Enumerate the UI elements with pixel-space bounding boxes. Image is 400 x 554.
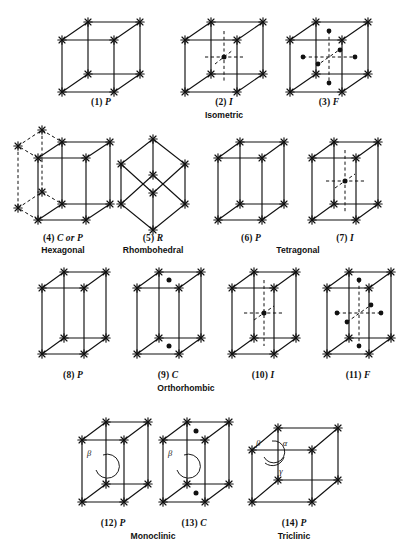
angle-label-beta-14: β bbox=[255, 438, 261, 448]
group-label-isometric: Isometric bbox=[205, 110, 243, 120]
lattice-point-body-center bbox=[262, 311, 267, 316]
caption-cell-2: (2) I bbox=[215, 97, 233, 107]
caption-cell-7: (7) I bbox=[336, 233, 354, 243]
caption-cell-12: (12) P bbox=[101, 518, 126, 528]
caption-cell-11: (11) F bbox=[346, 370, 371, 380]
cell-6-tetragonal-p bbox=[214, 138, 288, 224]
vertex-markers bbox=[214, 138, 288, 224]
angle-label-gamma-14: γ bbox=[279, 466, 283, 476]
cell-14-triclinic-p: β α γ bbox=[248, 424, 342, 506]
vertex-markers bbox=[14, 126, 114, 224]
group-label-monoclinic: Monoclinic bbox=[131, 531, 176, 541]
hexagonal-extension-dashed bbox=[18, 130, 62, 220]
angle-arcs-triclinic bbox=[264, 441, 285, 466]
angle-label-alpha-14: α bbox=[283, 438, 288, 448]
cell-13-monoclinic-c: β bbox=[159, 418, 233, 506]
face-center-guides bbox=[337, 280, 381, 346]
cell-7-tetragonal-i bbox=[308, 138, 382, 224]
bravais-lattices-figure: β β bbox=[0, 0, 400, 554]
cell-12-monoclinic-p: β bbox=[78, 418, 152, 506]
cell-2-isometric-i bbox=[181, 18, 267, 96]
angle-label-beta-12: β bbox=[86, 448, 92, 458]
group-label-tetragonal: Tetragonal bbox=[276, 245, 319, 255]
angle-arc-beta bbox=[177, 454, 200, 478]
cell-5-rhombohedral bbox=[117, 135, 189, 234]
cell-10-orthorhombic-i bbox=[228, 268, 300, 358]
group-label-orthorhombic: Orthorhombic bbox=[157, 383, 214, 393]
caption-cell-4: (4) C or P bbox=[43, 233, 83, 243]
caption-cell-10: (10) I bbox=[252, 370, 275, 380]
caption-cell-3: (3) F bbox=[319, 97, 339, 107]
group-label-rhombohedral: Rhombohedral bbox=[123, 245, 184, 255]
angle-arc-beta bbox=[96, 454, 119, 478]
angle-label-beta-13: β bbox=[167, 448, 173, 458]
vertex-markers bbox=[58, 18, 144, 96]
caption-cell-13: (13) C bbox=[181, 518, 206, 528]
caption-cell-1: (1) P bbox=[91, 97, 111, 107]
caption-cell-5: (5) R bbox=[143, 233, 163, 243]
lattice-point-body-center bbox=[343, 179, 348, 184]
caption-cell-6: (6) P bbox=[241, 233, 261, 243]
cell-11-orthorhombic-f bbox=[323, 268, 395, 358]
cell-8-orthorhombic-p bbox=[38, 268, 110, 358]
caption-cell-14: (14) P bbox=[282, 518, 307, 528]
lattice-point-body-center bbox=[222, 55, 227, 60]
lattice-points-base-centers bbox=[194, 429, 199, 496]
cell-4-hexagonal bbox=[14, 126, 114, 224]
cell-3-isometric-f bbox=[286, 18, 372, 96]
face-center-guides bbox=[303, 31, 355, 83]
vertex-markers bbox=[38, 268, 110, 358]
group-label-hexagonal: Hexagonal bbox=[41, 245, 84, 255]
caption-cell-8: (8) P bbox=[63, 370, 83, 380]
cell-1-isometric-p bbox=[58, 18, 144, 96]
caption-cell-9: (9) C bbox=[158, 370, 178, 380]
cell-9-orthorhombic-c bbox=[133, 268, 205, 358]
group-label-triclinic: Triclinic bbox=[278, 531, 310, 541]
vertex-markers bbox=[78, 418, 152, 506]
